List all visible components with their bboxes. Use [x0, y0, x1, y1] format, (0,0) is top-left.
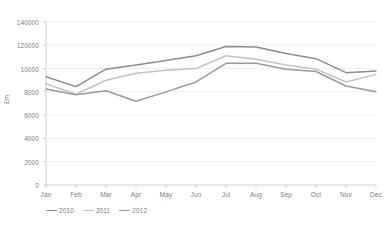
x-tick-label: May	[160, 191, 173, 198]
series-line-2012	[46, 63, 376, 101]
y-tick-label: 10000	[0, 65, 39, 72]
x-tick-label: Nov	[340, 191, 352, 198]
x-tick-label: Mar	[100, 191, 112, 198]
x-tick-label: Jan	[41, 191, 52, 198]
legend-item-2011[interactable]: 2011	[83, 207, 110, 214]
series-lines	[46, 46, 376, 101]
legend-item-2010[interactable]: 2010	[46, 207, 74, 214]
y-tick-label: 4000	[0, 135, 39, 142]
legend-item-2012[interactable]: 2012	[119, 207, 147, 214]
axis-lines	[46, 22, 376, 185]
chart-legend: 201020112012	[46, 207, 147, 214]
y-tick-label: 6000	[0, 112, 39, 119]
x-tick-label: Jul	[222, 191, 231, 198]
x-tick-label: Sep	[280, 191, 292, 198]
y-axis-title: £m	[3, 95, 10, 104]
legend-label: 2010	[59, 207, 74, 214]
x-tick-label: Aug	[250, 191, 262, 198]
line-chart: 1400001200001000080006000400020000 JanFe…	[0, 0, 384, 230]
x-tick-label: Oct	[311, 191, 321, 198]
axis-ticks	[43, 22, 376, 188]
y-tick-label: 2000	[0, 158, 39, 165]
legend-swatch-icon	[46, 210, 57, 212]
y-tick-label: 140000	[0, 19, 39, 26]
legend-swatch-icon	[83, 210, 94, 212]
y-tick-label: 120000	[0, 42, 39, 49]
legend-label: 2011	[96, 207, 110, 214]
x-tick-label: Feb	[70, 191, 82, 198]
legend-label: 2012	[132, 207, 147, 214]
y-tick-label: 0	[0, 182, 39, 189]
series-line-2010	[46, 46, 376, 86]
x-tick-label: Apr	[131, 191, 141, 198]
x-tick-label: Dec	[370, 191, 382, 198]
x-tick-label: Jun	[191, 191, 202, 198]
legend-swatch-icon	[119, 210, 130, 212]
